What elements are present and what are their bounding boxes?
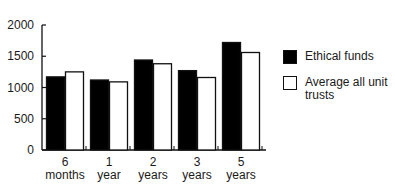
y-tick-label: 0 (27, 143, 34, 157)
y-tick-label: 500 (14, 112, 34, 126)
y-tick-label: 1500 (7, 49, 34, 63)
bar-average-unit-trusts (66, 72, 84, 150)
x-category-label: 5 (238, 155, 245, 169)
legend-swatch-ethical-funds (283, 50, 297, 64)
x-category-label: 6 (62, 155, 69, 169)
legend-label: Average all unit trusts (305, 76, 393, 102)
legend-swatch-average-unit-trusts (283, 76, 297, 90)
x-category-label: 3 (194, 155, 201, 169)
bar-average-unit-trusts (110, 82, 128, 150)
x-category-label: 2 (150, 155, 157, 169)
y-tick-label: 2000 (7, 18, 34, 32)
x-category-label: months (45, 168, 84, 182)
bar-ethical-funds (135, 60, 153, 150)
bar-ethical-funds (223, 43, 241, 151)
bar-chart: 05001000150020006months1year2years3years… (0, 0, 280, 193)
x-category-label: 1 (106, 155, 113, 169)
y-tick-label: 1000 (7, 81, 34, 95)
bar-average-unit-trusts (198, 78, 216, 151)
legend: Ethical funds Average all unit trusts (283, 50, 393, 114)
bar-average-unit-trusts (242, 53, 260, 151)
x-category-label: years (182, 168, 211, 182)
bar-ethical-funds (91, 80, 109, 150)
legend-item-average-unit-trusts: Average all unit trusts (283, 76, 393, 102)
bar-ethical-funds (47, 77, 65, 150)
x-category-label: year (97, 168, 120, 182)
bar-average-unit-trusts (154, 64, 172, 150)
legend-item-ethical-funds: Ethical funds (283, 50, 393, 64)
x-category-label: years (226, 168, 255, 182)
legend-label: Ethical funds (305, 50, 374, 63)
x-category-label: years (138, 168, 167, 182)
bar-ethical-funds (179, 71, 197, 150)
